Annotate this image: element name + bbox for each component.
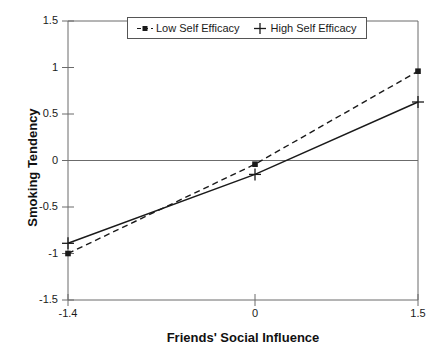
legend-label-low-self-efficacy: Low Self Efficacy — [156, 23, 240, 34]
data-point-low--1.4 — [65, 251, 71, 257]
y-tick-label-1: 1 — [24, 62, 58, 73]
plus-marker-icon — [252, 23, 268, 34]
x-tick-label-1.5: 1.5 — [393, 308, 439, 319]
legend-item-high-self-efficacy: High Self Efficacy — [252, 23, 357, 34]
data-point-low-0 — [252, 161, 258, 167]
series-line-high-self-efficacy — [68, 102, 418, 243]
x-tick-label--1.4: -1.4 — [43, 308, 93, 319]
y-tick-label--1.5: -1.5 — [24, 294, 58, 305]
legend-label-high-self-efficacy: High Self Efficacy — [271, 23, 357, 34]
data-point-high-0 — [249, 168, 261, 180]
chart-container: 1.5 1 0.5 0 -0.5 -1 -1.5 -1.4 0 1.5 Smok… — [0, 0, 439, 355]
chart-legend: Low Self Efficacy High Self Efficacy — [127, 17, 367, 39]
y-axis-title: Smoking Tendency — [25, 78, 40, 258]
square-marker-icon — [137, 23, 153, 34]
y-tick-label-1.5: 1.5 — [24, 15, 58, 26]
data-point-low-1.5 — [415, 68, 421, 74]
plot-area — [0, 0, 439, 355]
legend-item-low-self-efficacy: Low Self Efficacy — [137, 23, 240, 34]
data-point-high--1.4 — [62, 237, 74, 249]
data-point-high-1.5 — [412, 96, 424, 108]
x-axis-title: Friends' Social Influence — [68, 330, 418, 345]
series-line-low-self-efficacy — [68, 71, 418, 253]
x-tick-label-0: 0 — [230, 308, 280, 319]
